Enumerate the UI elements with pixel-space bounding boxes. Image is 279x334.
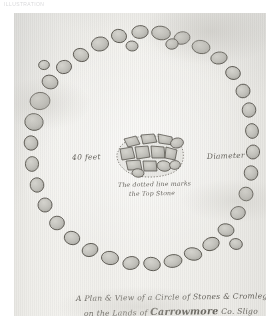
stone <box>37 197 54 214</box>
stone <box>29 177 45 194</box>
stone <box>163 253 183 268</box>
illustration-page: ILLUSTRATION <box>0 0 279 334</box>
stone <box>100 250 119 266</box>
stone <box>201 235 221 253</box>
stone <box>122 255 141 271</box>
orthostat <box>126 160 142 170</box>
stone <box>90 36 109 53</box>
stone <box>244 123 259 140</box>
stone <box>80 241 99 258</box>
stone <box>183 246 202 261</box>
stone <box>29 91 51 110</box>
stone <box>110 28 128 44</box>
watermark-text: ILLUSTRATION <box>4 1 60 8</box>
stone <box>237 185 255 202</box>
stone <box>25 156 39 172</box>
orthostat <box>135 146 150 159</box>
orthostat <box>141 134 157 144</box>
orthostat <box>120 147 135 160</box>
stone <box>245 144 261 160</box>
stone <box>55 59 73 75</box>
stone <box>229 205 247 221</box>
stone <box>142 256 161 273</box>
stone <box>126 40 139 51</box>
stone-circle-drawing <box>14 13 266 316</box>
stone <box>217 223 235 238</box>
stone <box>40 73 59 91</box>
stone <box>224 65 242 81</box>
stone <box>229 237 244 250</box>
stone <box>63 230 82 247</box>
stone <box>241 102 256 118</box>
paper-sheet: 40 feet Diameter The dotted line marks t… <box>14 13 266 316</box>
stone <box>131 25 149 39</box>
orthostat <box>143 161 157 171</box>
stone <box>191 39 211 55</box>
orthostat <box>151 146 165 158</box>
stone <box>38 60 50 70</box>
stone <box>151 25 172 41</box>
stone <box>23 134 40 151</box>
stone <box>210 51 228 65</box>
stone <box>49 215 65 230</box>
stone <box>71 46 90 63</box>
stone <box>23 112 44 132</box>
stone <box>235 83 252 100</box>
stone <box>243 165 258 181</box>
